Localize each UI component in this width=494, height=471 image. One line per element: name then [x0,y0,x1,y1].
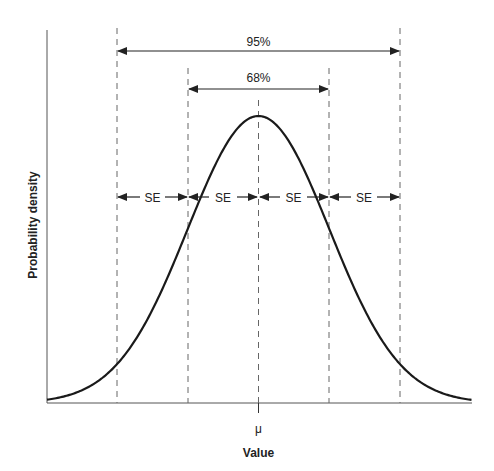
mean-label: μ [255,422,262,436]
x-axis-title: Value [243,446,275,460]
normal-distribution-diagram: 95% 68% SE SE SE SE μ Value Probability … [0,0,494,471]
se-label-1: SE [144,191,160,205]
interval-95-label: 95% [246,35,270,49]
interval-68-label: 68% [246,71,270,85]
se-label-3: SE [285,191,301,205]
se-label-2: SE [215,191,231,205]
y-axis-title: Probability density [26,171,40,279]
se-label-4: SE [356,191,372,205]
bell-curve [47,116,472,400]
